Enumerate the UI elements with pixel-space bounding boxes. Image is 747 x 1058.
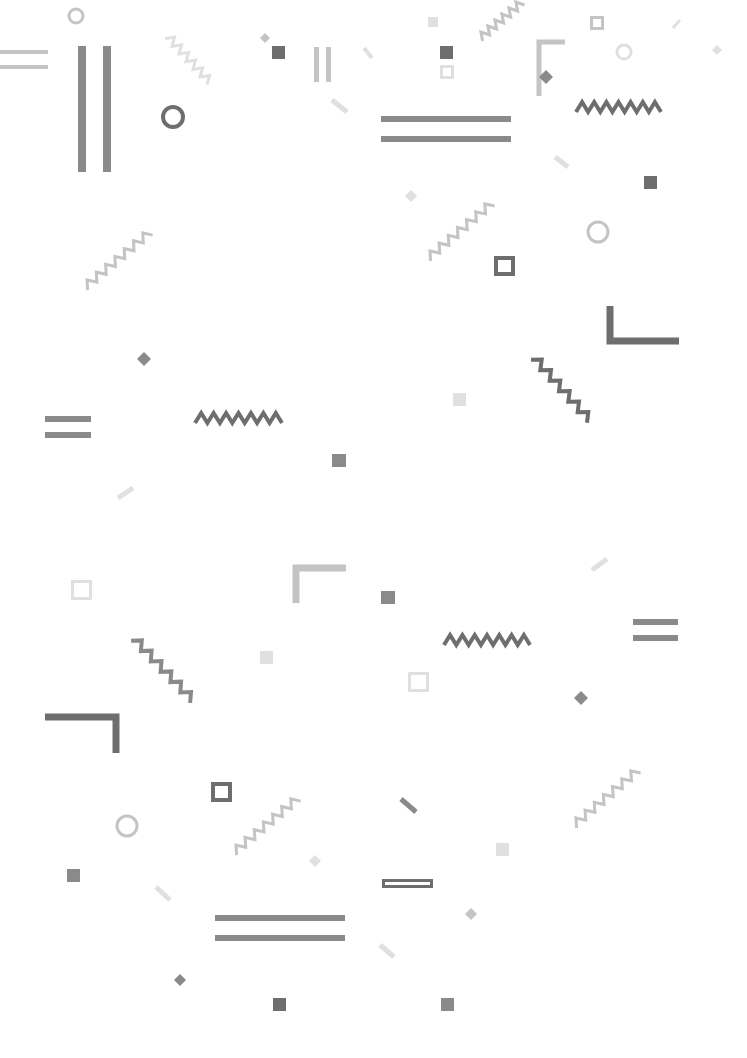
double-line-shape [633,635,678,641]
ring-shape [588,222,608,242]
zigzag-shape [195,413,282,423]
zigzag-shape [576,102,661,112]
double-line-shape [0,65,48,69]
zigzag-shape [531,360,588,423]
square-shape [441,998,454,1011]
zigzag-shape [430,204,495,261]
diamond-shape [174,974,186,986]
square-shape [644,176,657,189]
corner-bracket-shape [296,568,346,603]
diamond-shape [309,855,321,867]
dash-shape [555,157,568,167]
square-shape [260,651,273,664]
square-shape [381,591,395,604]
square-shape [272,46,285,59]
hollow-square-shape [410,674,428,691]
square-shape [496,843,509,856]
dash-shape [592,559,607,570]
double-line-shape [0,50,48,54]
double-line-shape [215,915,345,921]
zigzag-shape [236,799,301,855]
square-shape [428,17,438,27]
zigzag-shape [87,233,153,290]
corner-bracket-shape [539,42,565,96]
hollow-square-shape [592,18,603,29]
zigzag-shape [444,635,530,645]
square-shape [273,998,286,1011]
zigzag-shape [165,37,210,85]
dash-shape [401,799,416,812]
double-bar-shape [314,47,319,82]
diamond-shape [574,691,588,705]
double-line-shape [45,432,91,438]
dash-shape [332,100,347,112]
dash-shape [380,945,394,957]
double-line-shape [215,935,345,941]
corner-bracket-shape [610,306,679,341]
diamond-shape [712,45,722,55]
ring-shape [117,816,137,836]
square-shape [67,869,80,882]
confetti-pattern-canvas [0,0,747,1058]
dash-shape [673,20,680,28]
zigzag-shape [131,640,191,702]
double-line-shape [381,116,511,122]
hollow-square-shape [496,258,513,274]
ring-shape [617,45,631,59]
diamond-shape [405,190,417,202]
double-line-shape [633,619,678,625]
zigzag-shape [481,2,525,41]
double-bar-shape [78,46,86,172]
double-bar-shape [103,46,111,172]
double-line-shape [381,136,511,142]
double-line-shape [45,416,91,422]
square-shape [453,393,466,406]
double-bar-shape [326,47,331,82]
diamond-shape [260,33,270,43]
zigzag-shape [576,771,641,828]
diamond-shape [465,908,477,920]
corner-bracket-shape [45,717,116,753]
hollow-square-shape [384,881,432,887]
geometric-confetti-pattern [0,0,747,1058]
ring-shape [69,9,83,23]
hollow-square-shape [442,67,453,78]
diamond-shape [137,352,151,366]
dash-shape [118,488,133,498]
square-shape [440,46,453,59]
hollow-square-shape [73,582,91,599]
hollow-square-shape [213,784,230,800]
dash-shape [364,48,372,58]
square-shape [332,454,346,467]
dash-shape [156,887,170,900]
ring-shape [163,107,183,127]
